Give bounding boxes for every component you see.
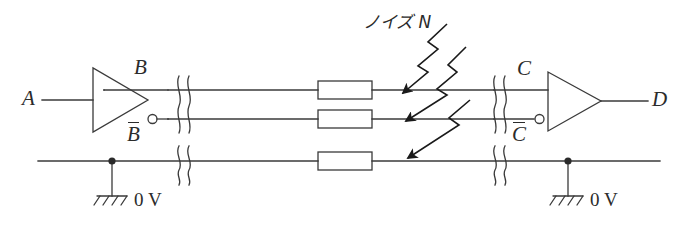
cable-break-right-ground-a xyxy=(494,146,497,185)
label-ground-right: 0 V xyxy=(590,190,618,209)
label-output-b: B xyxy=(134,57,147,78)
noise-arrow-bottom xyxy=(408,100,470,158)
cable-break-left-signal-a xyxy=(178,76,181,133)
ground-symbol-right-h3 xyxy=(568,196,574,205)
resistor-bottom xyxy=(318,152,372,170)
label-output-d: D xyxy=(652,89,667,110)
junction-dot-left xyxy=(108,157,115,164)
label-input-a: A xyxy=(22,88,35,109)
ground-symbol-left-h1 xyxy=(94,196,100,205)
cable-break-left-ground-a xyxy=(178,146,181,185)
receiver-input-bubble xyxy=(535,115,544,124)
cable-break-left-ground-b xyxy=(188,146,191,185)
ground-symbol-left-h3 xyxy=(112,196,118,205)
circuit-schematic-canvas xyxy=(0,0,682,240)
driver-output-bubble xyxy=(148,115,157,124)
ground-symbol-right-h2 xyxy=(559,196,565,205)
resistor-middle xyxy=(318,110,372,128)
ground-symbol-right-h4 xyxy=(577,196,583,205)
circuit-diagram: A B B C C D ノイズ N 0 V 0 V xyxy=(0,0,682,240)
junction-dot-right xyxy=(564,157,571,164)
overbar-c: C xyxy=(512,122,526,145)
label-noise: ノイズ N xyxy=(363,14,431,31)
cable-break-left-signal-b xyxy=(188,76,191,133)
cable-break-right-signal-a xyxy=(494,76,497,133)
label-output-b-bar: B xyxy=(127,122,140,145)
noise-arrow-middle xyxy=(406,47,466,121)
cable-break-right-ground-b xyxy=(504,146,507,185)
ground-symbol-right-h1 xyxy=(550,196,556,205)
label-input-c-bar: C xyxy=(512,122,526,145)
label-ground-left: 0 V xyxy=(134,190,162,209)
overbar-b: B xyxy=(127,122,140,145)
line-receiver-body xyxy=(548,72,601,131)
ground-symbol-left-h4 xyxy=(121,196,127,205)
noise-arrow-top xyxy=(403,24,447,93)
label-input-c: C xyxy=(517,58,531,79)
resistor-top xyxy=(318,81,372,99)
ground-symbol-left-h2 xyxy=(103,196,109,205)
cable-break-right-signal-b xyxy=(504,76,507,133)
